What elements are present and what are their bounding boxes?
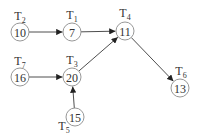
node-t2: 10T2 bbox=[11, 9, 29, 41]
edges-layer bbox=[29, 31, 173, 108]
node-label: T1 bbox=[66, 8, 77, 24]
node-t3: 20T3 bbox=[63, 53, 81, 86]
node-t1: 7T1 bbox=[63, 8, 81, 41]
node-t4: 11T4 bbox=[116, 6, 134, 40]
edge-t3-to-t4 bbox=[79, 37, 118, 71]
node-value: 20 bbox=[66, 71, 78, 85]
node-value: 16 bbox=[14, 71, 26, 85]
task-graph: 10T27T111T416T720T315T513T6 bbox=[0, 0, 199, 140]
node-t5: 15T5 bbox=[58, 108, 84, 135]
node-value: 7 bbox=[69, 26, 75, 40]
node-t6: 13T6 bbox=[171, 64, 189, 97]
edge-t5-to-t3 bbox=[73, 86, 75, 108]
edge-t1-to-t4 bbox=[81, 31, 116, 32]
node-t7: 16T7 bbox=[11, 54, 29, 86]
node-label: T2 bbox=[14, 9, 25, 25]
node-value: 15 bbox=[69, 111, 81, 125]
node-value: 13 bbox=[174, 82, 186, 96]
node-label: T6 bbox=[175, 64, 186, 80]
node-label: T7 bbox=[14, 54, 25, 70]
node-value: 11 bbox=[119, 25, 131, 39]
node-label: T4 bbox=[119, 6, 130, 22]
node-value: 10 bbox=[14, 26, 26, 40]
nodes-layer: 10T27T111T416T720T315T513T6 bbox=[11, 6, 189, 135]
node-label: T3 bbox=[66, 53, 77, 69]
edge-t4-to-t6 bbox=[131, 37, 173, 81]
